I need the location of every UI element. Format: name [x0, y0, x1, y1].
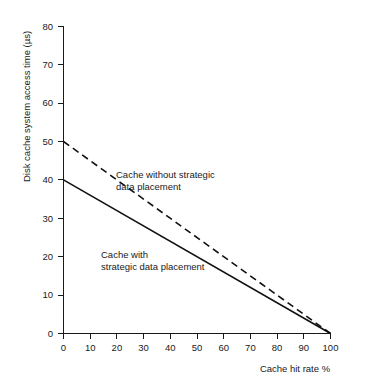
chart-figure: 0 10 20 30 40 50 60 70 80 0 10	[0, 0, 370, 390]
annotation-with-line1: Cache with	[101, 249, 148, 260]
annotation-without-line2: data placement	[116, 181, 181, 192]
y-tick-label-10: 10	[42, 289, 53, 300]
x-axis-ticks	[64, 334, 331, 340]
y-tick-label-20: 20	[42, 251, 53, 262]
y-tick-label-30: 30	[42, 213, 53, 224]
y-tick-label-40: 40	[42, 174, 53, 185]
x-tick-label-0: 0	[61, 342, 66, 353]
x-tick-label-20: 20	[112, 342, 123, 353]
y-tick-label-60: 60	[42, 97, 53, 108]
x-tick-label-100: 100	[323, 342, 339, 353]
x-tick-label-10: 10	[85, 342, 96, 353]
annotation-with-line2: strategic data placement	[101, 261, 205, 272]
x-tick-label-50: 50	[192, 342, 203, 353]
annotation-without-line1: Cache without strategic	[116, 169, 215, 180]
y-axis-title: Disk cache system access time (µs)	[21, 31, 32, 182]
y-tick-label-50: 50	[42, 136, 53, 147]
x-tick-label-90: 90	[299, 342, 310, 353]
x-tick-label-70: 70	[245, 342, 256, 353]
x-axis-title: Cache hit rate %	[260, 363, 331, 374]
annotation-without: Cache without strategic data placement	[116, 169, 215, 192]
y-tick-label-0: 0	[48, 328, 53, 339]
x-tick-label-80: 80	[272, 342, 283, 353]
x-tick-label-60: 60	[218, 342, 229, 353]
y-tick-label-80: 80	[42, 21, 53, 32]
x-tick-label-30: 30	[138, 342, 149, 353]
line-chart: 0 10 20 30 40 50 60 70 80 0 10	[0, 0, 370, 390]
y-axis-ticks	[58, 26, 64, 333]
y-tick-label-70: 70	[42, 59, 53, 70]
y-axis-tick-labels: 0 10 20 30 40 50 60 70 80	[42, 21, 53, 339]
x-tick-label-40: 40	[165, 342, 176, 353]
x-axis-tick-labels: 0 10 20 30 40 50 60 70 80 90 100	[61, 342, 339, 353]
